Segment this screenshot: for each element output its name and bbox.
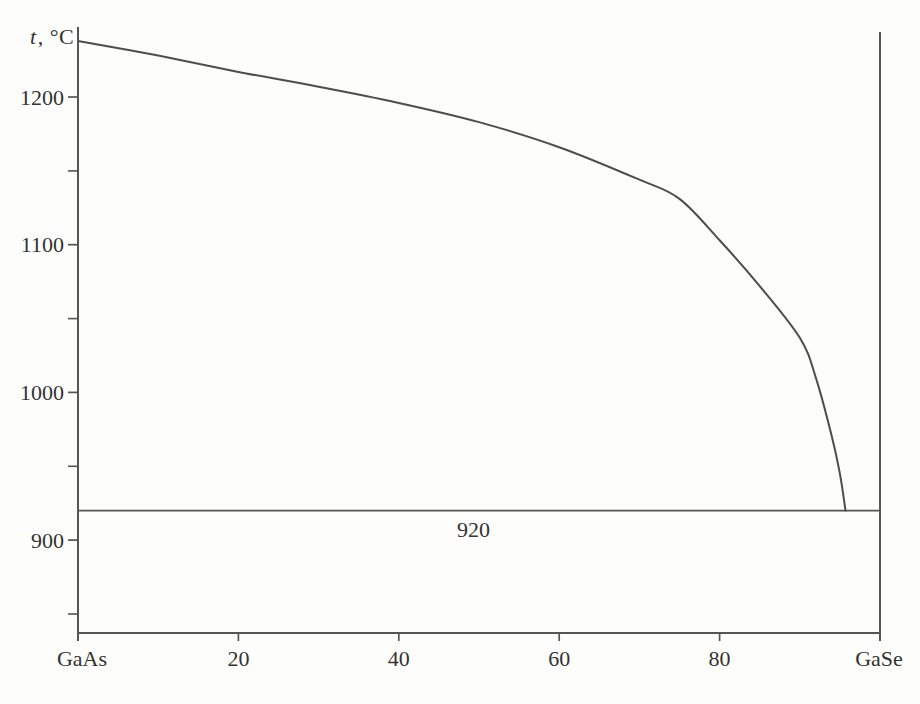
phase-diagram-chart: 92012001100100090020406080GaAsGaSe (0, 0, 920, 704)
x-tick-label: 40 (388, 646, 410, 671)
y-tick-label: 1200 (20, 85, 64, 110)
y-tick-label: 900 (31, 528, 64, 553)
y-axis-title: t, °C (30, 24, 74, 50)
x-axis-label-gase: GaSe (855, 646, 903, 671)
x-tick-label: 80 (709, 646, 731, 671)
y-axis-title-unit: , °C (38, 24, 74, 49)
x-tick-label: 60 (548, 646, 570, 671)
x-tick-label: 20 (227, 646, 249, 671)
y-tick-label: 1000 (20, 380, 64, 405)
y-axis-title-symbol: t (30, 24, 37, 49)
y-tick-label: 1100 (21, 232, 64, 257)
eutectic-temperature-label: 920 (457, 517, 490, 542)
x-axis-label-gaas: GaAs (57, 646, 107, 671)
phase-diagram-figure: 92012001100100090020406080GaAsGaSe t, °C (0, 0, 920, 704)
liquidus-curve (78, 41, 846, 511)
